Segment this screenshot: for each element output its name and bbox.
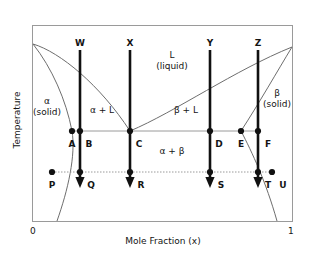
region-label-alpha-plus-liquid: α + L: [90, 105, 114, 115]
beta-solidus-curve: [241, 47, 292, 131]
point-label-U: U: [279, 180, 286, 190]
point-label-C: C: [136, 139, 143, 149]
plot-frame: [33, 26, 293, 222]
point-marker-Q: [77, 169, 83, 175]
region-label-beta-solid-state: (solid): [263, 99, 291, 109]
point-label-Q: Q: [87, 180, 95, 190]
point-marker-S: [207, 169, 213, 175]
cooling-arrow-Y-head: [205, 177, 214, 188]
cooling-path-label-Z: Z: [255, 38, 262, 48]
point-marker-E: [238, 128, 244, 134]
cooling-arrow-heads: [75, 177, 262, 188]
point-label-T: T: [265, 180, 271, 190]
phase-diagram-canvas: [0, 0, 311, 265]
point-marker-F: [255, 128, 261, 134]
cooling-path-label-Y: Y: [207, 38, 214, 48]
phase-diagram-figure: Temperature Mole Fraction (x) 0 1 α (sol…: [0, 0, 311, 265]
point-label-B: B: [86, 139, 93, 149]
x-axis-title: Mole Fraction (x): [125, 236, 200, 246]
y-axis-title: Temperature: [12, 91, 22, 148]
cooling-path-label-X: X: [127, 38, 134, 48]
point-marker-D: [207, 128, 213, 134]
point-marker-U: [269, 169, 275, 175]
point-label-E: E: [238, 139, 244, 149]
liquidus-left-curve: [33, 44, 130, 131]
x-axis-tick-max: 1: [288, 226, 294, 236]
point-marker-P: [49, 169, 55, 175]
cooling-arrow-X-head: [125, 177, 134, 188]
point-marker-B: [77, 128, 83, 134]
point-marker-T: [255, 169, 261, 175]
point-label-S: S: [218, 180, 224, 190]
cooling-path-label-W: W: [75, 38, 85, 48]
cooling-arrow-Z-head: [253, 177, 262, 188]
point-marker-C: [127, 128, 133, 134]
alpha-solvus-curve: [33, 44, 73, 221]
point-marker-A: [69, 128, 75, 134]
region-label-alpha-plus-beta: α + β: [160, 146, 185, 156]
region-label-beta-plus-liquid: β + L: [174, 105, 198, 115]
point-label-R: R: [138, 180, 145, 190]
cooling-arrow-W-head: [75, 177, 84, 188]
point-label-P: P: [49, 180, 56, 190]
region-label-liquid-symbol: L: [169, 50, 174, 60]
region-label-alpha-solid-symbol: α: [44, 96, 50, 106]
point-label-A: A: [69, 139, 76, 149]
region-label-liquid-state: (liquid): [156, 61, 188, 71]
region-label-alpha-solid-state: (solid): [33, 107, 61, 117]
x-axis-tick-min: 0: [30, 226, 36, 236]
point-label-D: D: [215, 139, 222, 149]
point-label-F: F: [265, 139, 271, 149]
region-label-beta-solid-symbol: β: [274, 88, 280, 98]
point-marker-R: [127, 169, 133, 175]
